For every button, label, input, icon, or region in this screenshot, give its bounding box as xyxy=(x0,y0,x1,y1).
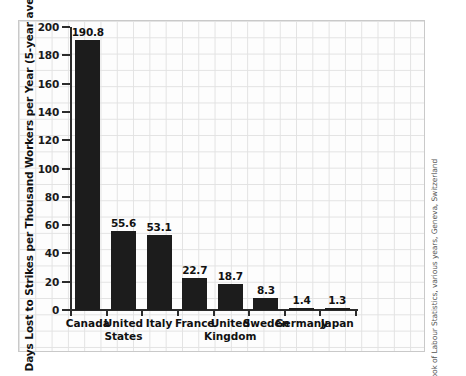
bar[interactable]: 190.8 xyxy=(75,40,100,310)
bar-value-label: 1.3 xyxy=(328,294,346,306)
category-label-line-1: Japan xyxy=(321,317,354,329)
y-tick-label: 20 xyxy=(45,276,59,288)
x-tick-mark xyxy=(355,311,357,316)
bar[interactable]: 8.3 xyxy=(253,298,278,310)
y-tick-label: 160 xyxy=(38,78,59,90)
y-tick-label: 60 xyxy=(45,219,59,231)
bar[interactable]: 55.6 xyxy=(111,231,136,310)
x-tick-mark xyxy=(319,311,321,316)
category-label-line-2: States xyxy=(104,330,143,343)
y-tick-label: 200 xyxy=(38,21,59,33)
bar[interactable]: 1.3 xyxy=(325,308,350,310)
x-tick-mark xyxy=(248,311,250,316)
x-tick-mark xyxy=(213,311,215,316)
x-tick-mark xyxy=(284,311,286,316)
source-note-text: SOURCE: International Labour Office, Yea… xyxy=(431,159,440,376)
bar-chart-figure: Days Lost to Strikes per Thousand Worker… xyxy=(0,0,466,376)
bar-value-label: 53.1 xyxy=(147,221,172,233)
category-label: UnitedStates xyxy=(104,317,143,343)
y-tick-mark xyxy=(62,281,70,283)
category-label-line-1: Italy xyxy=(146,317,172,329)
bar-value-label: 18.7 xyxy=(218,270,243,282)
y-tick-mark xyxy=(62,111,70,113)
bar-value-label: 55.6 xyxy=(111,217,136,229)
y-tick-mark xyxy=(62,309,70,311)
y-tick-mark xyxy=(62,54,70,56)
bar-value-label: 22.7 xyxy=(182,264,207,276)
y-tick-label: 80 xyxy=(45,191,59,203)
category-label: Italy xyxy=(146,317,172,330)
y-axis-title-text: Days Lost to Strikes per Thousand Worker… xyxy=(23,0,35,371)
y-tick-mark xyxy=(62,139,70,141)
y-tick-mark xyxy=(62,252,70,254)
y-tick-label: 120 xyxy=(38,134,59,146)
y-tick-label: 0 xyxy=(52,304,59,316)
y-tick-mark xyxy=(62,26,70,28)
y-tick-mark xyxy=(62,168,70,170)
bar[interactable]: 53.1 xyxy=(147,235,172,310)
bar[interactable]: 18.7 xyxy=(218,284,243,310)
x-tick-mark xyxy=(177,311,179,316)
y-tick-mark xyxy=(62,196,70,198)
category-label-line-1: United xyxy=(104,317,143,329)
x-tick-mark xyxy=(70,311,72,316)
bar-value-label: 8.3 xyxy=(257,284,275,296)
y-tick-label: 100 xyxy=(38,163,59,175)
source-note: SOURCE: International Labour Office, Yea… xyxy=(428,20,442,352)
bar-value-label: 1.4 xyxy=(293,294,311,306)
y-tick-label: 40 xyxy=(45,247,59,259)
category-label: Japan xyxy=(321,317,354,330)
plot-area: 020406080100120140160180200 190.855.653.… xyxy=(70,27,355,310)
y-axis-title: Days Lost to Strikes per Thousand Worker… xyxy=(22,27,36,310)
x-tick-mark xyxy=(141,311,143,316)
category-label-line-2: Kingdom xyxy=(204,330,256,343)
bar[interactable]: 22.7 xyxy=(182,278,207,310)
x-tick-mark xyxy=(106,311,108,316)
bar-value-label: 190.8 xyxy=(72,26,104,38)
y-tick-label: 180 xyxy=(38,49,59,61)
bar[interactable]: 1.4 xyxy=(289,308,314,310)
y-tick-label: 140 xyxy=(38,106,59,118)
y-tick-mark xyxy=(62,83,70,85)
y-tick-mark xyxy=(62,224,70,226)
